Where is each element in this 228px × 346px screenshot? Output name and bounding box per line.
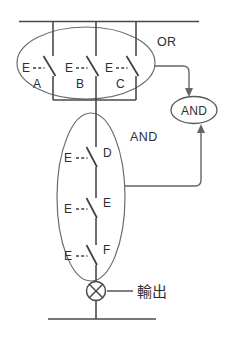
or-branch-b: E B (65, 22, 99, 101)
contact-a-terminal-label: E (22, 61, 30, 75)
contact-f-name-label: F (103, 243, 110, 257)
and-to-gate-arrowhead (197, 124, 205, 133)
and-group-label: AND (130, 130, 158, 144)
or-branch-a: E A (22, 22, 56, 101)
contact-e-terminal-label: E (64, 202, 72, 216)
contact-b-terminal-label: E (65, 61, 73, 75)
contact-c-name-label: C (116, 77, 125, 91)
contact-e-name-label: E (103, 196, 111, 210)
contact-f-terminal-label: E (64, 249, 72, 263)
contact-b-blade (87, 56, 99, 76)
or-group-label: OR (157, 35, 177, 49)
output-label: 輸出 (137, 283, 167, 301)
contact-d-name-label: D (103, 146, 112, 160)
and-contact-f: E F (64, 243, 110, 265)
contact-a-name-label: A (33, 77, 41, 91)
or-to-gate-connector (154, 66, 189, 90)
contact-b-name-label: B (76, 77, 84, 91)
contact-e-blade (87, 198, 98, 218)
and-gate-label: AND (181, 104, 207, 118)
contact-d-blade (87, 147, 98, 167)
and-contact-d: E D (64, 146, 112, 167)
or-to-gate-arrowhead (185, 88, 193, 97)
output-lamp (87, 282, 106, 301)
and-contact-e: E E (64, 196, 111, 218)
or-branch-c: E C (105, 22, 139, 101)
contact-a-blade (44, 56, 56, 76)
contact-c-terminal-label: E (105, 61, 113, 75)
contact-f-blade (87, 245, 98, 265)
contact-c-blade (127, 56, 139, 76)
ladder-diagram-canvas: OR E A E B E C (0, 0, 228, 346)
contact-d-terminal-label: E (64, 151, 72, 165)
ladder-diagram-svg: OR E A E B E C (0, 0, 228, 346)
